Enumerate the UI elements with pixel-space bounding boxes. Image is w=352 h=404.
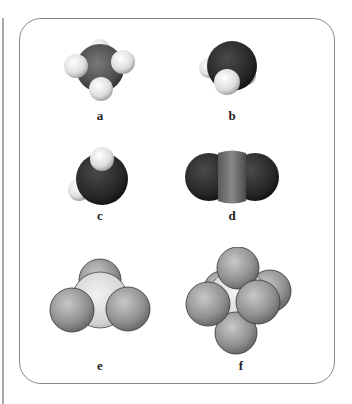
label-b: b bbox=[228, 108, 235, 124]
label-a: a bbox=[97, 108, 104, 124]
label-f: f bbox=[239, 358, 243, 374]
label-c: c bbox=[97, 208, 103, 224]
label-e: e bbox=[97, 358, 103, 374]
label-d: d bbox=[228, 208, 235, 224]
molecule-a bbox=[60, 35, 140, 105]
molecule-f bbox=[182, 247, 294, 355]
molecule-d bbox=[185, 150, 279, 204]
molecule-e bbox=[48, 258, 152, 338]
left-margin-line bbox=[2, 18, 4, 404]
molecule-c bbox=[65, 145, 135, 210]
molecule-b bbox=[195, 38, 265, 100]
